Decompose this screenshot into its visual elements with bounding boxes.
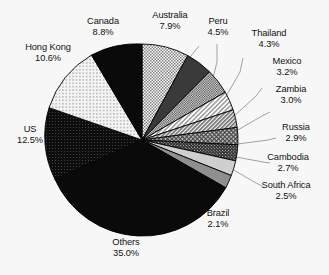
leader-line-russia	[238, 138, 276, 144]
pie-label-russia-value: 2.9%	[272, 133, 320, 144]
leader-line-thailand	[224, 58, 243, 100]
pie-label-cambodia-name: Cambodia	[258, 152, 318, 163]
pie-label-south-africa: South Africa 2.5%	[249, 180, 323, 202]
pie-label-brazil-value: 2.1%	[196, 219, 240, 230]
pie-label-canada-name: Canada	[72, 16, 134, 27]
pie-label-us-value: 12.5%	[8, 135, 52, 146]
pie-label-russia-name: Russia	[272, 122, 320, 133]
pie-label-others-name: Others	[100, 237, 152, 248]
pie-chart-page: Canada 8.8% Australia 7.9% Peru 4.5% Tha…	[0, 0, 329, 275]
pie-label-south-africa-name: South Africa	[249, 180, 323, 191]
pie-label-thailand-value: 4.3%	[240, 39, 298, 50]
pie-label-brazil-name: Brazil	[196, 208, 240, 219]
pie-label-peru: Peru 4.5%	[198, 16, 238, 38]
pie-label-hong-kong-value: 10.6%	[12, 53, 84, 64]
pie-label-canada-value: 8.8%	[72, 27, 134, 38]
pie-label-mexico-name: Mexico	[262, 56, 312, 67]
pie-label-australia: Australia 7.9%	[139, 10, 201, 32]
pie-label-russia: Russia 2.9%	[272, 122, 320, 144]
pie-label-mexico-value: 3.2%	[262, 67, 312, 78]
pie-label-peru-name: Peru	[198, 16, 238, 27]
pie-label-zambia-name: Zambia	[266, 84, 316, 95]
pie-label-australia-value: 7.9%	[139, 21, 201, 32]
pie-label-australia-name: Australia	[139, 10, 201, 21]
pie-label-canada: Canada 8.8%	[72, 16, 134, 38]
pie-label-zambia: Zambia 3.0%	[266, 84, 316, 106]
pie-label-brazil: Brazil 2.1%	[196, 208, 240, 230]
pie-label-thailand: Thailand 4.3%	[240, 28, 298, 50]
pie-label-thailand-name: Thailand	[240, 28, 298, 39]
leader-line-mexico	[232, 88, 262, 118]
pie-label-us-name: US	[8, 124, 52, 135]
pie-label-zambia-value: 3.0%	[266, 95, 316, 106]
pie-label-cambodia: Cambodia 2.7%	[258, 152, 318, 174]
pie-label-peru-value: 4.5%	[198, 27, 238, 38]
pie-label-others: Others 35.0%	[100, 237, 152, 259]
pie-label-hong-kong-name: Hong Kong	[12, 42, 84, 53]
pie-label-hong-kong: Hong Kong 10.6%	[12, 42, 84, 64]
pie-label-others-value: 35.0%	[100, 248, 152, 259]
pie-label-cambodia-value: 2.7%	[258, 163, 318, 174]
pie-label-south-africa-value: 2.5%	[249, 191, 323, 202]
pie-label-us: US 12.5%	[8, 124, 52, 146]
pie-label-mexico: Mexico 3.2%	[262, 56, 312, 78]
leader-line-zambia	[236, 112, 270, 131]
